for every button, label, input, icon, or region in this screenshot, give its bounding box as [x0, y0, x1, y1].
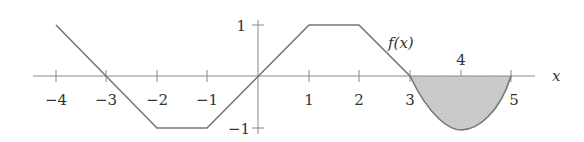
x-axis-label: x [552, 67, 561, 85]
x-tick-label: 2 [354, 91, 364, 109]
x-tick-label: 3 [405, 91, 415, 109]
x-tick-label: 5 [509, 91, 519, 109]
x-tick-label: −1 [196, 91, 218, 109]
x-tick-label: −3 [95, 91, 117, 109]
y-tick-label: 1 [236, 17, 246, 35]
y-tick-label: −1 [228, 120, 250, 138]
x-tick-label: 4 [456, 51, 466, 69]
x-tick-label: 1 [304, 91, 314, 109]
x-tick-label: −4 [45, 91, 67, 109]
function-graph: −4 −3 −2 −1 1 2 3 4 5 1 −1 f(x) x [0, 0, 584, 142]
function-label: f(x) [387, 34, 414, 52]
x-tick-label: −2 [146, 91, 168, 109]
